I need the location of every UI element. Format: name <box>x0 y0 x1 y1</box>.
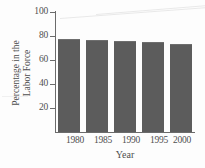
x-axis-label-1985: 1985 <box>88 135 118 145</box>
bar-1985 <box>86 40 108 132</box>
x-axis-line <box>55 132 195 133</box>
x-axis-label-2000: 2000 <box>167 135 197 145</box>
bar-chart-figure: Percentage in the Labor Force 100 80 60 … <box>0 0 205 168</box>
y-axis-label-40: 40 <box>31 79 48 89</box>
y-axis-title-line-1: Percentage in the <box>11 13 22 133</box>
bar-2000 <box>170 44 192 132</box>
y-axis-label-20: 20 <box>31 103 48 113</box>
y-axis-label-60: 60 <box>31 55 48 65</box>
x-axis-label-1980: 1980 <box>60 135 90 145</box>
y-axis-label-100: 100 <box>31 7 48 17</box>
bar-1980 <box>58 39 80 132</box>
x-axis-label-1990: 1990 <box>116 135 146 145</box>
bar-1990 <box>114 41 136 132</box>
plot-area <box>55 11 195 132</box>
y-axis-label-80: 80 <box>31 31 48 41</box>
bar-1995 <box>142 42 164 132</box>
y-axis-title: Percentage in the Labor Force <box>11 13 33 133</box>
x-axis-title: Year <box>55 149 195 160</box>
